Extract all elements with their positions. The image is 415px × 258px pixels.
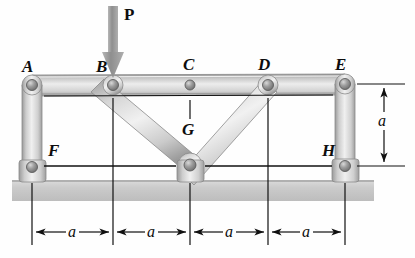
joint-label-e: E — [335, 56, 346, 73]
joint-label-g: G — [182, 121, 194, 138]
pin-b — [108, 80, 119, 91]
joint-label-f: F — [48, 142, 59, 159]
pin-d — [263, 80, 274, 91]
pin-a — [27, 80, 38, 91]
member-post-af — [22, 85, 42, 172]
pin-h — [340, 161, 351, 172]
joint-label-h: H — [322, 142, 335, 159]
pin-f — [27, 162, 38, 173]
pin-c — [185, 80, 195, 90]
dim-label-span-4: a — [302, 224, 310, 240]
joint-label-d: D — [258, 56, 270, 73]
pin-g — [184, 159, 196, 171]
load-label-p: P — [124, 6, 134, 23]
joint-label-c: C — [183, 56, 194, 73]
truss-diagram-figure: P A B C D E F G H a a a a a — [0, 0, 415, 258]
dim-label-span-3: a — [225, 224, 233, 240]
dim-label-span-1: a — [68, 224, 76, 240]
pin-e — [340, 79, 351, 90]
dim-label-span-2: a — [147, 224, 155, 240]
joint-label-b: B — [96, 58, 107, 75]
dim-label-height: a — [378, 113, 386, 129]
truss-diagram-canvas — [0, 0, 415, 258]
joint-label-a: A — [22, 58, 33, 75]
